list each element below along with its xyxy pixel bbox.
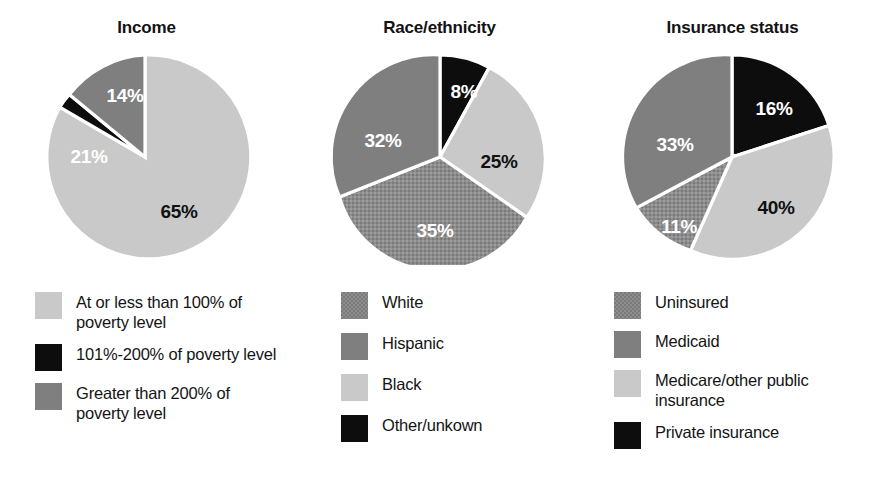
legend-swatch-icon bbox=[341, 333, 368, 360]
legend-item: Black bbox=[341, 374, 586, 401]
pie-wrap-race-ethnicity: 8% 25% 35% 32% bbox=[293, 50, 586, 265]
legend-item-label: Greater than 200% of poverty level bbox=[76, 383, 281, 423]
pie-wrap-insurance-status: 16% 40% 11% 33% bbox=[586, 50, 879, 265]
legend-swatch-icon bbox=[614, 292, 641, 319]
legend-swatch-icon bbox=[614, 422, 641, 449]
legend-item-label: 101%-200% of poverty level bbox=[76, 344, 276, 364]
legend-item-label: Medicare/other public insurance bbox=[655, 370, 860, 410]
legend-swatch-icon bbox=[341, 374, 368, 401]
legend-item: Uninsured bbox=[614, 292, 879, 319]
legend-swatch-icon bbox=[614, 331, 641, 358]
legend-item: Other/unkown bbox=[341, 415, 586, 442]
pie-value-label-insurance-0: 16% bbox=[755, 98, 793, 119]
chart-title-income: Income bbox=[0, 18, 293, 38]
pie-value-label-insurance-2: 11% bbox=[660, 216, 696, 237]
legend-item: Private insurance bbox=[614, 422, 879, 449]
legend-item-label: Private insurance bbox=[655, 422, 779, 442]
legend-swatch-icon bbox=[341, 415, 368, 442]
legend-item: 101%-200% of poverty level bbox=[35, 344, 293, 371]
legend-item: Greater than 200% of poverty level bbox=[35, 383, 293, 423]
pie-wrap-income: 65% 21% 14% bbox=[0, 50, 293, 265]
legend-item: Medicaid bbox=[614, 331, 879, 358]
legend-swatch-icon bbox=[35, 292, 62, 319]
pie-value-label-insurance-3: 33% bbox=[656, 134, 694, 155]
legend-item-label: Medicaid bbox=[655, 331, 719, 351]
pie-value-label-insurance-1: 40% bbox=[757, 197, 795, 218]
pie-chart-race-ethnicity: 8% 25% 35% 32% bbox=[320, 50, 560, 265]
pie-value-label-income-1: 21% bbox=[70, 146, 108, 167]
legend-item-label: Black bbox=[382, 374, 421, 394]
pie-chart-insurance-status: 16% 40% 11% 33% bbox=[613, 50, 853, 265]
legend-item-label: Uninsured bbox=[655, 292, 728, 312]
pie-chart-income: 65% 21% 14% bbox=[27, 50, 267, 265]
pie-value-label-race-3: 32% bbox=[364, 130, 402, 151]
pie-slices-insurance-status bbox=[622, 55, 834, 260]
panel-race-ethnicity: Race/ethnicity 8% 25% 3 bbox=[293, 0, 586, 497]
legend-item: Hispanic bbox=[341, 333, 586, 360]
legend-item: Medicare/other public insurance bbox=[614, 370, 879, 410]
legend-item-label: White bbox=[382, 292, 423, 312]
legend-item-label: Other/unkown bbox=[382, 415, 482, 435]
pie-value-label-race-2: 35% bbox=[416, 220, 454, 241]
legend-race-ethnicity: White Hispanic Black Other/unkown bbox=[293, 292, 586, 456]
pie-chart-figure: Income 65% 21% 14% At or less than 100% … bbox=[0, 0, 879, 497]
pie-value-label-income-0: 65% bbox=[160, 201, 198, 222]
legend-swatch-icon bbox=[35, 383, 62, 410]
legend-swatch-icon bbox=[614, 370, 641, 397]
legend-item: At or less than 100% of poverty level bbox=[35, 292, 293, 332]
legend-item-label: Hispanic bbox=[382, 333, 444, 353]
legend-item: White bbox=[341, 292, 586, 319]
legend-item-label: At or less than 100% of poverty level bbox=[76, 292, 281, 332]
pie-value-label-income-2: 14% bbox=[106, 85, 144, 106]
legend-insurance-status: Uninsured Medicaid Medicare/other public… bbox=[586, 292, 879, 461]
legend-swatch-icon bbox=[341, 292, 368, 319]
chart-title-race-ethnicity: Race/ethnicity bbox=[293, 18, 586, 38]
panel-income: Income 65% 21% 14% At or less than 100% … bbox=[0, 0, 293, 497]
pie-value-label-race-1: 25% bbox=[480, 151, 518, 172]
legend-swatch-icon bbox=[35, 344, 62, 371]
pie-value-label-race-0: 8% bbox=[450, 81, 477, 102]
legend-income: At or less than 100% of poverty level 10… bbox=[0, 292, 293, 435]
panel-insurance-status: Insurance status 16% 40% bbox=[586, 0, 879, 497]
chart-title-insurance-status: Insurance status bbox=[586, 18, 879, 38]
